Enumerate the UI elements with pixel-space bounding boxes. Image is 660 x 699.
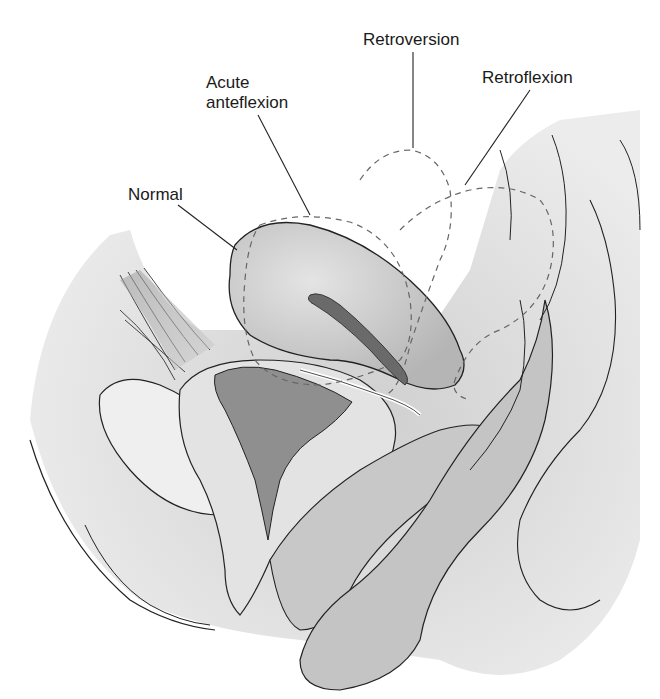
anatomy-diagram xyxy=(0,0,660,699)
leader-normal xyxy=(178,205,237,250)
leader-acute-anteflexion xyxy=(258,115,310,215)
label-normal: Normal xyxy=(128,185,183,205)
label-retroflexion: Retroflexion xyxy=(482,68,573,88)
label-anteflexion: anteflexion xyxy=(206,93,288,113)
label-acute: Acute xyxy=(206,73,249,93)
label-retroversion: Retroversion xyxy=(363,30,459,50)
